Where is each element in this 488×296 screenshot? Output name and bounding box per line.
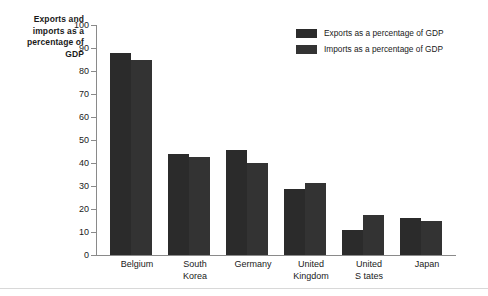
y-axis-tick-label: 30 bbox=[79, 181, 89, 191]
y-axis-tick bbox=[91, 140, 96, 141]
y-axis-tick bbox=[91, 48, 96, 49]
x-axis-category-label-line: S tates bbox=[324, 271, 414, 283]
bar-imports bbox=[305, 183, 326, 255]
bar-exports bbox=[226, 150, 247, 255]
bar-imports bbox=[247, 163, 268, 255]
y-axis-tick bbox=[91, 186, 96, 187]
y-axis-tick-label: 50 bbox=[79, 135, 89, 145]
legend-swatch bbox=[296, 29, 317, 38]
y-axis-tick-label: 40 bbox=[79, 158, 89, 168]
bar-group: SouthKorea bbox=[168, 25, 210, 255]
y-axis-tick bbox=[91, 94, 96, 95]
y-axis-tick bbox=[91, 25, 96, 26]
bar-exports bbox=[400, 218, 421, 255]
y-axis-tick-label: 80 bbox=[79, 66, 89, 76]
legend-item: Exports as a percentage of GDP bbox=[296, 28, 443, 38]
bar-exports bbox=[110, 53, 131, 255]
y-axis-tick-label: 100 bbox=[74, 20, 89, 30]
chart-legend: Exports as a percentage of GDPImports as… bbox=[296, 28, 443, 60]
bar-group: Germany bbox=[226, 25, 268, 255]
y-axis-tick-label: 10 bbox=[79, 227, 89, 237]
bar-exports bbox=[284, 189, 305, 255]
y-axis-title: Exports and imports as a percentage of G… bbox=[6, 14, 84, 60]
bar-imports bbox=[189, 157, 210, 255]
y-axis-tick-label: 60 bbox=[79, 112, 89, 122]
y-axis-tick bbox=[91, 71, 96, 72]
y-axis-tick bbox=[91, 163, 96, 164]
y-axis-line bbox=[96, 25, 97, 255]
y-axis-tick-label: 90 bbox=[79, 43, 89, 53]
bar-imports bbox=[363, 215, 384, 255]
y-axis-tick-label: 20 bbox=[79, 204, 89, 214]
x-axis-category-label-line: Japan bbox=[382, 259, 472, 271]
legend-item: Imports as a percentage of GDP bbox=[296, 44, 443, 54]
bar-chart-figure: Exports and imports as a percentage of G… bbox=[0, 0, 488, 296]
page-rule-bottom bbox=[0, 288, 488, 289]
x-axis-line bbox=[96, 255, 456, 256]
legend-label: Exports as a percentage of GDP bbox=[324, 28, 443, 38]
x-axis-category-label-line: Korea bbox=[150, 271, 240, 283]
x-axis-category-label: Japan bbox=[382, 259, 472, 271]
y-axis-tick-label: 0 bbox=[84, 250, 89, 260]
bar-group: Belgium bbox=[110, 25, 152, 255]
legend-swatch bbox=[296, 45, 317, 54]
y-axis-tick bbox=[91, 209, 96, 210]
y-axis-tick bbox=[91, 117, 96, 118]
bar-imports bbox=[421, 221, 442, 256]
legend-label: Imports as a percentage of GDP bbox=[324, 44, 443, 54]
y-axis-tick bbox=[91, 255, 96, 256]
y-axis-tick-label: 70 bbox=[79, 89, 89, 99]
y-axis-tick bbox=[91, 232, 96, 233]
bar-exports bbox=[168, 154, 189, 255]
bar-imports bbox=[131, 60, 152, 256]
bar-exports bbox=[342, 230, 363, 255]
